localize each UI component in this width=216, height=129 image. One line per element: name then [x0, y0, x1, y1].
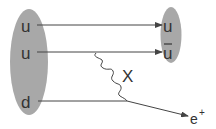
- quark-label-u1: u: [21, 17, 30, 36]
- quark-label-d: d: [21, 93, 30, 112]
- positron-label: e: [190, 111, 198, 127]
- x-boson-label: X: [122, 67, 133, 86]
- meson-antiquark-label-ubar: u: [163, 44, 172, 63]
- positron-charge: +: [199, 107, 205, 118]
- meson-quark-label-u: u: [163, 17, 172, 36]
- positron-line: [127, 101, 188, 116]
- quark-label-u2: u: [21, 44, 30, 63]
- feynman-diagram: u u d u u X e +: [0, 0, 216, 129]
